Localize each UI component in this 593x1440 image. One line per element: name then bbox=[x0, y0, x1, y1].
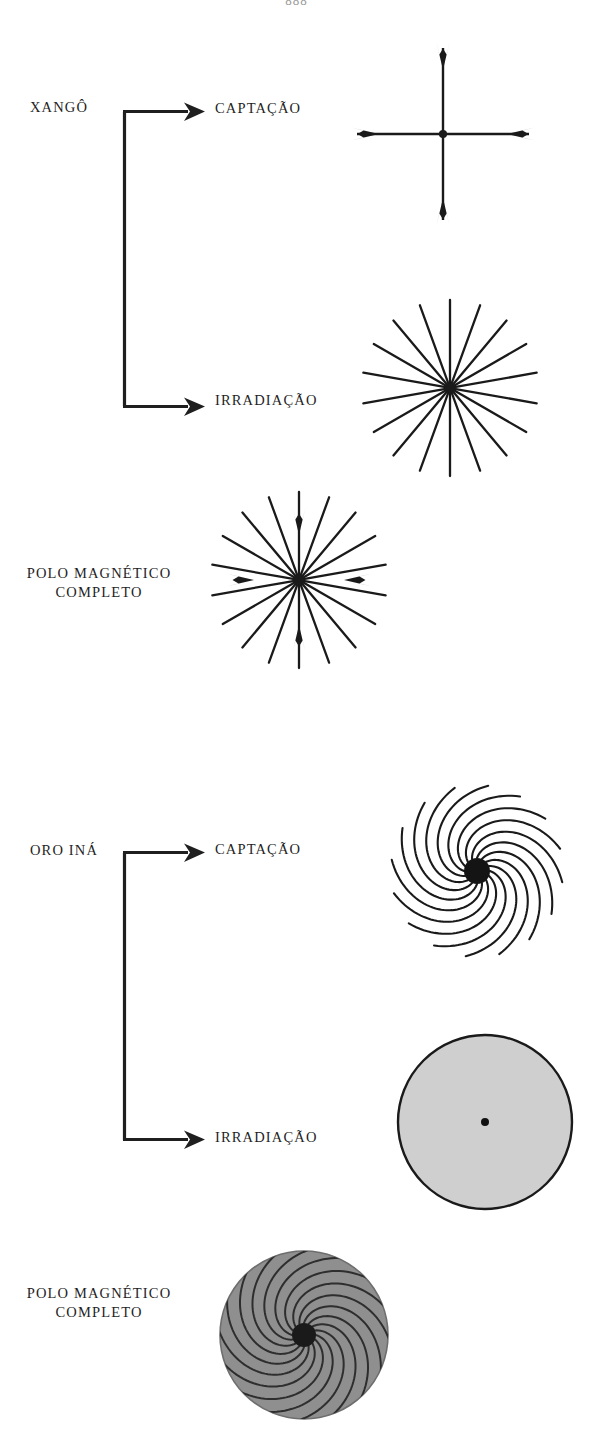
summary-label-polo-magnetico-xango: POLO MAGNÉTICO COMPLETO bbox=[8, 564, 190, 601]
figure-gray-disc-with-spiral-arms bbox=[216, 1247, 396, 1427]
diagram-page: 888 XANGÔ CAPTAÇÃO IRRADIAÇÃO POLO MAGNÉ… bbox=[0, 0, 593, 1440]
summary-label-polo-magnetico-oro-ina: POLO MAGNÉTICO COMPLETO bbox=[8, 1284, 190, 1321]
entity-label-oro-ina: ORO INÁ bbox=[30, 841, 98, 860]
summary-label-line-1: POLO MAGNÉTICO bbox=[27, 1285, 172, 1301]
summary-label-line-2: COMPLETO bbox=[55, 1304, 142, 1320]
branch-label-captacao-xango: CAPTAÇÃO bbox=[215, 99, 301, 118]
figure-cross-inward-arrows bbox=[333, 24, 563, 244]
figure-spiral-pinwheel bbox=[382, 776, 582, 971]
connector-bracket-xango bbox=[110, 95, 220, 425]
summary-label-line-1: POLO MAGNÉTICO bbox=[27, 565, 172, 581]
figure-radial-starburst bbox=[355, 293, 550, 488]
figure-gray-filled-disc bbox=[392, 1029, 582, 1219]
connector-bracket-oro-ina bbox=[110, 837, 220, 1167]
page-folio: 888 bbox=[0, 0, 593, 9]
summary-label-line-2: COMPLETO bbox=[55, 584, 142, 600]
branch-label-irradiacao-oro-ina: IRRADIAÇÃO bbox=[215, 1128, 318, 1147]
entity-label-xango: XANGÔ bbox=[30, 98, 88, 117]
branch-label-captacao-oro-ina: CAPTAÇÃO bbox=[215, 840, 301, 859]
figure-starburst-with-inward-arrows bbox=[204, 485, 404, 680]
branch-label-irradiacao-xango: IRRADIAÇÃO bbox=[215, 391, 318, 410]
